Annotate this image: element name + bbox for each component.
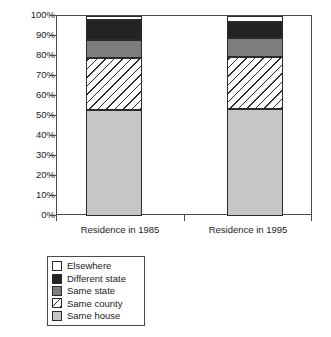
bar-segment-same-house[interactable] <box>227 109 283 216</box>
legend-swatch-same-house-icon <box>52 311 62 321</box>
x-tick-mark <box>184 215 185 221</box>
legend-item-same-county[interactable]: Same county <box>52 297 140 309</box>
bar-segment-same-house[interactable] <box>86 110 142 216</box>
legend-item-same-state[interactable]: Same state <box>52 285 140 297</box>
y-tick-label: 100% <box>9 10 55 20</box>
stacked-bar-chart: 100% 90% 80% 70% 60% 50% 40% 30% 20% 10%… <box>0 0 331 337</box>
legend-item-same-house[interactable]: Same house <box>52 310 140 322</box>
x-axis-label-1995: Residence in 1995 <box>184 224 312 235</box>
legend-swatch-same-state-icon <box>52 286 62 296</box>
legend-swatch-elsewhere-icon <box>52 261 62 271</box>
y-tick-label: 70% <box>9 70 55 80</box>
y-tick-label: 20% <box>9 170 55 180</box>
plot-area <box>56 15 312 215</box>
bar-segment-same-county[interactable] <box>227 57 283 109</box>
y-tick-label: 10% <box>9 190 55 200</box>
x-tick-mark <box>56 215 57 221</box>
y-tick-label: 40% <box>9 130 55 140</box>
legend-swatch-different-state-icon <box>52 274 62 284</box>
x-tick-mark <box>311 215 312 221</box>
y-tick-label: 50% <box>9 110 55 120</box>
legend-item-different-state[interactable]: Different state <box>52 272 140 284</box>
legend-item-elsewhere[interactable]: Elsewhere <box>52 260 140 272</box>
bar-segment-different-state[interactable] <box>227 22 283 38</box>
y-tick-label: 90% <box>9 30 55 40</box>
y-tick-label: 30% <box>9 150 55 160</box>
legend-label: Same county <box>67 299 122 309</box>
bar-residence-1985[interactable] <box>86 16 142 216</box>
y-tick-label: 80% <box>9 50 55 60</box>
y-tick-label: 0% <box>9 210 55 220</box>
legend-swatch-same-county-icon <box>52 298 62 308</box>
legend-label: Same state <box>67 286 115 296</box>
y-tick-label: 60% <box>9 90 55 100</box>
bar-residence-1995[interactable] <box>227 16 283 216</box>
legend-label: Same house <box>67 311 120 321</box>
x-axis-label-1985: Residence in 1985 <box>56 224 184 235</box>
legend: Elsewhere Different state Same state Sam… <box>47 256 145 326</box>
bar-segment-same-state[interactable] <box>227 38 283 57</box>
bar-segment-same-state[interactable] <box>86 40 142 58</box>
legend-label: Elsewhere <box>67 261 111 271</box>
legend-label: Different state <box>67 274 126 284</box>
bar-segment-different-state[interactable] <box>86 20 142 40</box>
bar-segment-same-county[interactable] <box>86 58 142 110</box>
